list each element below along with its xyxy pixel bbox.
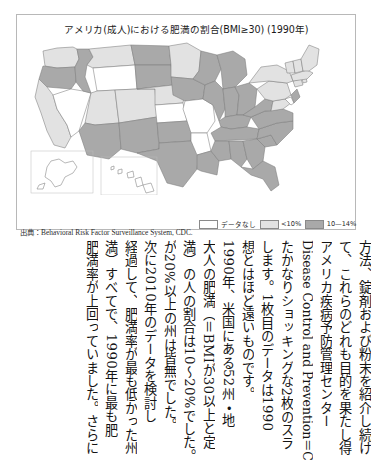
- text-column-15: 肥満率が上回っていました。さらに: [79, 240, 99, 469]
- figure-title: アメリカ(成人)における肥満の割合(BMI≥30) (1990年): [17, 22, 355, 36]
- legend-swatch-no-data: [199, 220, 218, 229]
- map-svg: [21, 37, 353, 195]
- state-alaska: [37, 159, 77, 189]
- state-hawaii: [111, 166, 154, 193]
- us-choropleth-map: [21, 37, 353, 195]
- state-montana: [87, 45, 135, 68]
- legend-item-10-to-14: 10—14%: [305, 220, 356, 229]
- state-minnesota: [169, 43, 201, 79]
- state-michigan: [217, 51, 247, 89]
- text-column-3: アメリカ疾病予防管理センター: [313, 240, 333, 469]
- text-column-14: 満）すべてで、1990年に最も肥: [98, 240, 118, 469]
- text-column-2: て、これらのどれも目的を果たし得: [332, 240, 352, 469]
- text-column-12: 次に2010年のデータを検討し: [137, 240, 157, 469]
- text-column-8: 1990年、米国にある52州・地: [215, 240, 235, 469]
- text-column-6: します。1枚目のデータは1990: [254, 240, 274, 469]
- state-maine: [301, 45, 319, 71]
- text-column-10: 満）の人の割合は10〜20%でした。: [176, 240, 196, 469]
- text-column-4: Disease Control and Prevention＝C: [293, 240, 313, 469]
- legend-item-under-10: <10%: [260, 220, 302, 229]
- text-column-11: が20%以上の州は皆無でした。: [157, 240, 177, 469]
- figure-panel: アメリカ(成人)における肥満の割合(BMI≥30) (1990年): [16, 14, 356, 230]
- text-column-1: 方法、錠剤および粉末を紹介し続け: [352, 240, 372, 469]
- state-florida: [241, 161, 279, 191]
- text-column-13: 経過して、肥満率が最も低かった州: [118, 240, 138, 469]
- text-column-9: 大人の肥満（＝BMIが30以上と定: [196, 240, 216, 469]
- legend-swatch-under-10: [260, 220, 279, 229]
- state-pennsylvania: [257, 81, 291, 101]
- state-washington: [43, 47, 79, 68]
- state-newmexico: [119, 117, 159, 153]
- legend-item-no-data: データなし: [199, 219, 256, 229]
- legend-label-no-data: データなし: [221, 219, 256, 229]
- legend-label-10-to-14: 10—14%: [327, 220, 357, 228]
- text-column-5: たかなりショッキングな2枚のスラ: [274, 240, 294, 469]
- state-north-dakota: [131, 45, 171, 65]
- state-oklahoma: [157, 121, 193, 143]
- legend-swatch-10-to-14: [305, 220, 324, 229]
- state-tennessee: [211, 127, 259, 141]
- state-indiana: [223, 87, 239, 117]
- state-kansas: [155, 103, 187, 123]
- legend-label-under-10: <10%: [281, 220, 301, 228]
- state-wyoming: [93, 65, 137, 91]
- figure-source: 出典：Behavioral Risk Factor Surveillance S…: [20, 226, 193, 237]
- map-legend: データなし <10% 10—14%: [199, 219, 356, 229]
- body-text-columns: 方法、錠剤および粉末を紹介し続け て、これらのどれも目的を果たし得 アメリカ疾病…: [2, 240, 371, 469]
- state-arizona: [79, 123, 121, 159]
- text-column-7: 想とはほど遠いものです。: [235, 240, 255, 469]
